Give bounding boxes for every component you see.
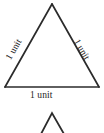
figure-canvas <box>0 0 104 133</box>
second-triangle-apex-lines <box>41 113 64 133</box>
second-triangle-apex <box>41 113 64 133</box>
geometry-figure: 1 unit 1 unit 1 unit <box>0 0 104 133</box>
bottom-side-label: 1 unit <box>30 91 53 101</box>
